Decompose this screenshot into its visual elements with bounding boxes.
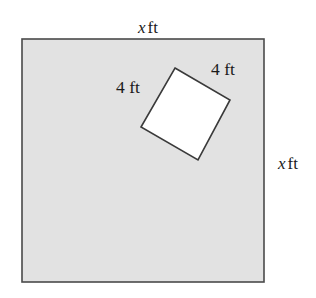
outer-square-right-side-label: xft [278,155,298,172]
inner-right-unit: ft [224,59,235,79]
outer-right-unit: ft [288,154,298,173]
inner-square-right-side-label: 4 ft [211,61,235,79]
outer-top-variable: x [138,18,148,37]
outer-right-variable: x [278,154,288,173]
inner-right-value: 4 [211,59,220,79]
inner-square-left-side-label: 4 ft [116,79,140,97]
inner-left-value: 4 [116,77,125,97]
figure-canvas [0,0,316,298]
geometry-figure: xft xft 4 ft 4 ft [0,0,316,298]
outer-top-unit: ft [148,18,158,37]
outer-square-top-side-label: xft [138,19,158,36]
inner-left-unit: ft [129,77,140,97]
